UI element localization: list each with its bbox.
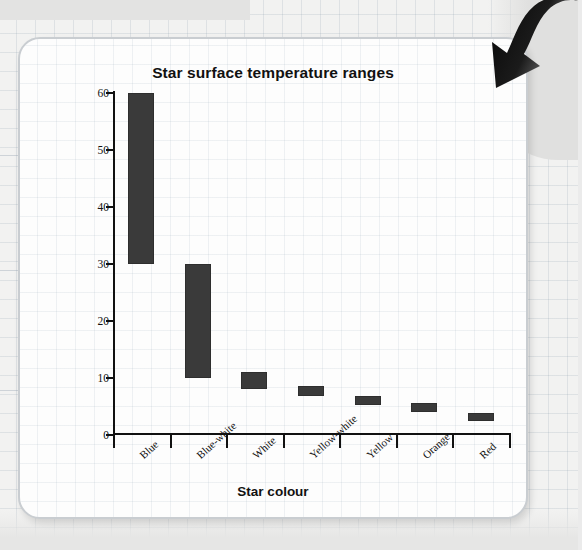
y-axis-tick-label: 30	[98, 258, 110, 270]
y-axis-tick-label: 10	[98, 372, 110, 384]
x-axis-tick	[452, 435, 454, 448]
y-axis-tick-label: 50	[98, 144, 110, 156]
chart-card: Star surface temperature ranges 01020304…	[18, 37, 528, 519]
bar-white	[241, 372, 267, 389]
y-axis-tick-label: 40	[98, 201, 110, 213]
backdrop-shade-top-left	[0, 0, 250, 20]
bar-red	[468, 413, 494, 421]
x-axis-tick	[170, 435, 172, 448]
bar-yellow-white	[298, 386, 324, 396]
x-axis-title: Star colour	[20, 484, 526, 499]
chart-title: Star surface temperature ranges	[20, 64, 526, 82]
bar-blue	[128, 93, 154, 264]
y-axis-tick-label: 0	[103, 429, 109, 441]
x-axis-tick	[396, 435, 398, 448]
x-axis-tick	[113, 435, 115, 448]
x-axis-tick	[283, 435, 285, 448]
y-axis-line	[113, 91, 115, 437]
y-axis-title: Temperature (in thousands of kelvins)	[18, 69, 20, 313]
y-axis-tick-label: 20	[98, 315, 110, 327]
plot-area: 0102030405060 BlueBlue-whiteWhiteYellow-…	[113, 93, 509, 435]
y-axis-tick-label: 60	[98, 87, 110, 99]
bar-orange	[411, 403, 437, 412]
x-axis-tick	[509, 435, 511, 448]
bar-blue-white	[185, 264, 211, 378]
bar-yellow	[355, 396, 381, 405]
